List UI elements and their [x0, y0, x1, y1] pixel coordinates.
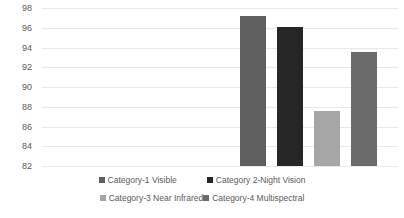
bars-layer [42, 8, 398, 166]
legend-item-category-2[interactable]: Category 2-Night Vision [207, 175, 306, 185]
y-axis-tick-label: 82 [2, 162, 32, 171]
y-axis-tick-label: 84 [2, 142, 32, 151]
legend-label: Category-1 Visible [108, 175, 177, 185]
bar[interactable] [240, 16, 266, 166]
legend-label: Category 2-Night Vision [216, 175, 306, 185]
legend-swatch-icon [99, 177, 105, 183]
y-axis-tick-label: 92 [2, 63, 32, 72]
legend-item-category-4[interactable]: Category-4 Multispectral [203, 193, 304, 203]
bar-chart: 828486889092949698 Category-1 Visible Ca… [0, 0, 404, 218]
y-axis-tick-label: 88 [2, 103, 32, 112]
legend-swatch-icon [100, 195, 106, 201]
y-axis-tick-label: 94 [2, 44, 32, 53]
legend-swatch-icon [207, 177, 213, 183]
legend-label: Category-3 Near Infrared [109, 193, 204, 203]
y-axis-tick-label: 96 [2, 24, 32, 33]
legend-row-2: Category-3 Near Infrared Category-4 Mult… [0, 193, 404, 203]
plot-area: 828486889092949698 [42, 8, 398, 166]
y-axis-tick-label: 98 [2, 4, 32, 13]
chart-legend: Category-1 Visible Category 2-Night Visi… [0, 172, 404, 218]
bar[interactable] [277, 27, 303, 166]
legend-label: Category-4 Multispectral [212, 193, 304, 203]
y-axis-tick-label: 86 [2, 123, 32, 132]
legend-row-1: Category-1 Visible Category 2-Night Visi… [0, 175, 404, 185]
y-axis-tick-label: 90 [2, 83, 32, 92]
gridline [42, 166, 398, 167]
legend-item-category-3[interactable]: Category-3 Near Infrared [100, 193, 204, 203]
legend-swatch-icon [203, 195, 209, 201]
legend-item-category-1[interactable]: Category-1 Visible [99, 175, 177, 185]
bar[interactable] [351, 52, 377, 166]
bar[interactable] [314, 111, 340, 166]
